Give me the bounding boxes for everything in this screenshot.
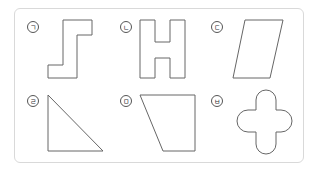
shapes-canvas: [0, 0, 319, 175]
z-shape: [48, 20, 92, 78]
trapezoid: [140, 95, 195, 151]
parallelogram: [233, 20, 283, 78]
h-shape: [140, 20, 185, 78]
right-triangle: [48, 95, 103, 151]
rounded-cross: [237, 90, 292, 154]
